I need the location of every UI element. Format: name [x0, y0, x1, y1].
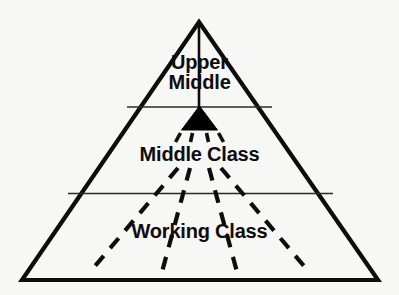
- tier-label-working-class: Working Class: [0, 221, 399, 241]
- tier-label-middle-class: Middle Class: [0, 144, 399, 164]
- tier-label-upper-middle-line1: Upper: [171, 51, 228, 73]
- tier-label-upper-middle: Upper Middle: [0, 52, 399, 93]
- tier-label-upper-middle-line2: Middle: [0, 72, 399, 92]
- class-pyramid-diagram: Upper Middle Middle Class Working Class: [0, 0, 399, 295]
- solid-marker-triangle: [182, 106, 218, 130]
- marker-fan-dashes: [176, 133, 224, 142]
